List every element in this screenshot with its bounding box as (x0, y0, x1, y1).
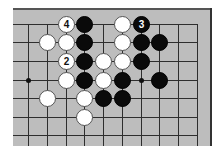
grid-line-vertical (28, 24, 29, 146)
white-stone (76, 109, 93, 126)
board-right-edge (210, 8, 212, 146)
grid-line-vertical (197, 24, 198, 146)
white-stone (114, 34, 131, 51)
grid-line-vertical (178, 24, 179, 146)
grid-line-horizontal (13, 24, 198, 25)
white-stone (39, 90, 56, 107)
white-stone-move-4: 4 (58, 16, 75, 33)
grid-line-horizontal (13, 117, 198, 118)
white-stone (95, 72, 112, 89)
black-stone (76, 16, 93, 33)
black-stone (151, 34, 168, 51)
board-top-edge (13, 8, 212, 10)
white-stone (114, 16, 131, 33)
hoshi-point (26, 78, 31, 83)
white-stone (58, 34, 75, 51)
grid-line-horizontal (13, 135, 198, 136)
white-stone (95, 53, 112, 70)
white-stone (76, 90, 93, 107)
black-stone-move-3: 3 (133, 16, 150, 33)
white-stone (39, 34, 56, 51)
white-stone (58, 72, 75, 89)
black-stone (133, 53, 150, 70)
black-stone (151, 72, 168, 89)
hoshi-point (139, 78, 144, 83)
black-stone (95, 90, 112, 107)
go-board (13, 8, 212, 146)
black-stone (76, 53, 93, 70)
black-stone (76, 34, 93, 51)
black-stone (133, 34, 150, 51)
white-stone-move-2: 2 (58, 53, 75, 70)
black-stone (114, 72, 131, 89)
black-stone (114, 90, 131, 107)
white-stone (114, 53, 131, 70)
black-stone (76, 72, 93, 89)
